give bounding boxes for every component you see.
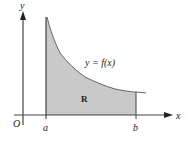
y-axis-label: y (19, 0, 25, 11)
curve-label-text: y = f(x) (84, 57, 116, 69)
origin-label: O (13, 118, 20, 129)
x-axis-label: x (175, 110, 181, 121)
y-axis-arrowhead-icon (20, 11, 26, 20)
curve-label: y = f(x) (84, 57, 116, 69)
x-axis-arrowhead-icon (164, 112, 173, 118)
b-label: b (133, 122, 138, 133)
area-under-curve-diagram: y x O a b y = f(x) R (0, 0, 188, 141)
a-label: a (43, 122, 48, 133)
region-label: R (81, 94, 88, 104)
